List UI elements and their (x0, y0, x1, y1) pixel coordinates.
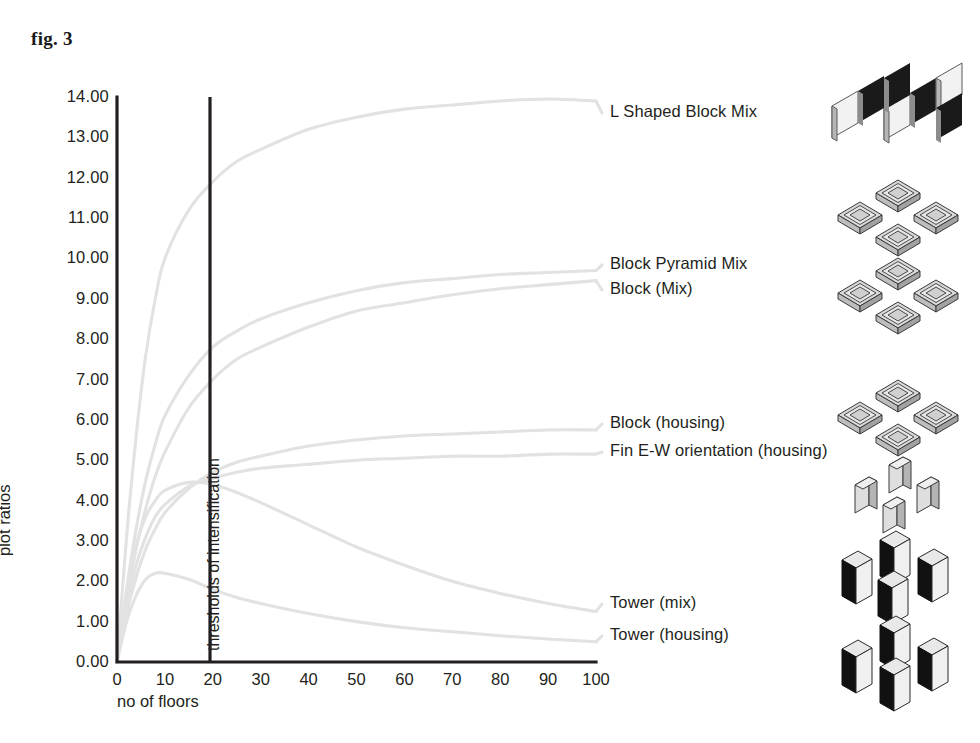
x-tick-label: 100 (576, 670, 616, 689)
x-tick-label: 80 (480, 670, 520, 689)
curve-fin-e-w-orientation-housing (117, 454, 596, 662)
leader-lines (596, 101, 602, 642)
series-label-block-housing: Block (housing) (610, 413, 725, 432)
x-tick-label: 40 (289, 670, 329, 689)
x-tick-label: 60 (384, 670, 424, 689)
y-tick-label: 8.00 (43, 329, 109, 348)
x-axis-label: no of floors (117, 692, 199, 711)
x-tick-label: 0 (97, 670, 137, 689)
leader-line (596, 281, 602, 290)
chart-area: 0.001.002.003.004.005.006.007.008.009.00… (0, 0, 980, 743)
series-label-block-pyramid-mix: Block Pyramid Mix (610, 254, 747, 273)
x-tick-label: 10 (145, 670, 185, 689)
x-tick-label: 50 (337, 670, 377, 689)
x-tick-label: 90 (528, 670, 568, 689)
curve-tower-mix (117, 482, 596, 662)
leader-line (596, 452, 602, 454)
y-tick-label: 4.00 (43, 491, 109, 510)
series-label-block-mix: Block (Mix) (610, 279, 693, 298)
axes (117, 97, 596, 662)
y-tick-label: 9.00 (43, 289, 109, 308)
y-tick-label: 13.00 (43, 127, 109, 146)
x-tick-label: 20 (193, 670, 233, 689)
threshold-annotation-label: thresholds of intensification (205, 458, 223, 651)
y-tick-label: 7.00 (43, 370, 109, 389)
curve-tower-housing (117, 572, 596, 662)
leader-line (596, 265, 602, 271)
y-tick-label: 5.00 (43, 450, 109, 469)
y-tick-label: 1.00 (43, 612, 109, 631)
y-tick-label: 11.00 (43, 208, 109, 227)
leader-line (596, 424, 602, 430)
curve-block-mix (117, 281, 596, 662)
y-tick-label: 2.00 (43, 571, 109, 590)
y-tick-label: 12.00 (43, 168, 109, 187)
plot-svg (0, 0, 980, 743)
y-tick-label: 6.00 (43, 410, 109, 429)
curve-block-pyramid-mix (117, 271, 596, 662)
series-label-tower-housing: Tower (housing) (610, 625, 729, 644)
y-tick-label: 3.00 (43, 531, 109, 550)
series-label-tower-mix: Tower (mix) (610, 593, 696, 612)
leader-line (596, 101, 602, 113)
x-tick-label: 70 (432, 670, 472, 689)
leader-line (596, 636, 602, 642)
leader-line (596, 604, 602, 612)
series-label-l-shaped-block-mix: L Shaped Block Mix (610, 102, 757, 121)
curve-l-shaped-block-mix (117, 99, 596, 662)
x-tick-label: 30 (241, 670, 281, 689)
series-label-fin-e-w-orientation-housing: Fin E-W orientation (housing) (610, 441, 828, 460)
y-tick-label: 10.00 (43, 248, 109, 267)
y-axis-label: plot ratios (0, 436, 14, 556)
curve-group (117, 99, 596, 662)
y-tick-label: 0.00 (43, 652, 109, 671)
y-tick-label: 14.00 (43, 87, 109, 106)
